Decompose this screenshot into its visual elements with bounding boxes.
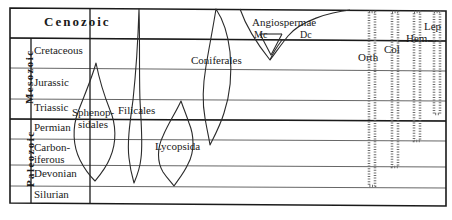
period-label-devonian: Devonian <box>34 168 77 180</box>
gridline-cretaceous-base <box>10 68 446 71</box>
gridline-devonian-base <box>10 186 446 188</box>
plant-label-sphenopsidales-line1: Sphenop- <box>72 107 114 119</box>
period-label-permian: Permian <box>34 122 71 134</box>
gridline-permian-base <box>10 139 446 141</box>
insect-label-hem: Hem <box>406 33 427 45</box>
plant-label-sphenopsidales-line2: sidales <box>78 119 108 131</box>
insect-range-bars <box>369 12 440 186</box>
period-label-silurian: Silurian <box>34 189 69 201</box>
plant-label-coniferales: Coniferales <box>191 55 242 67</box>
era-label-cenozoic: Cenozoic <box>44 15 111 29</box>
period-label-triassic: Triassic <box>34 102 68 114</box>
spindle-coniferales <box>203 9 231 145</box>
spindle-filicales <box>128 9 142 183</box>
period-label-carboniferous-line1: Carbon- <box>34 142 70 154</box>
period-label-carboniferous-line2: iferous <box>34 154 65 166</box>
plant-label-angiospermae-mc: Mc <box>254 30 267 41</box>
period-label-jurassic: Jurassic <box>34 77 69 89</box>
insect-bar-col <box>392 12 398 167</box>
plant-label-angiospermae: Angiospermae <box>252 17 316 29</box>
plant-label-lycopsida: Lycopsida <box>155 141 200 153</box>
insect-bar-orth <box>369 12 375 186</box>
insect-label-col: Col <box>384 44 400 56</box>
spindle-angiospermae-tip <box>270 40 282 60</box>
geologic-range-chart: Cenozoic Mesozoic Paleozoic Cretaceous J… <box>0 0 452 220</box>
plant-label-angiospermae-dc: Dc <box>300 30 312 41</box>
period-label-cretaceous: Cretaceous <box>34 45 83 57</box>
insect-label-lep: Lep <box>424 21 441 33</box>
insect-label-orth: Orth <box>358 52 378 64</box>
plant-label-filicales: Filicales <box>118 105 155 117</box>
